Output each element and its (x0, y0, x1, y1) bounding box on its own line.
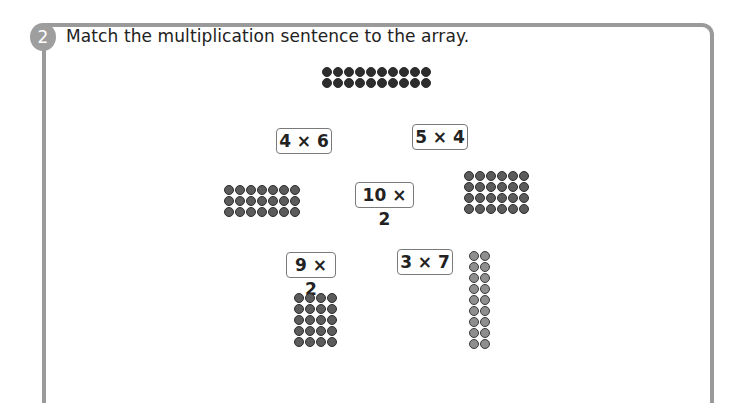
sentence-card[interactable]: 9 × 2 (286, 252, 336, 278)
dot-icon (327, 326, 337, 336)
dot-icon (327, 304, 337, 314)
dot-icon (469, 284, 479, 294)
dot-icon (246, 185, 256, 195)
dot-icon (257, 185, 267, 195)
dot-icon (497, 171, 507, 181)
dot-icon (377, 78, 387, 88)
dot-icon (475, 182, 485, 192)
dot-icon (469, 295, 479, 305)
dot-icon (327, 337, 337, 347)
dot-icon (388, 67, 398, 77)
dot-icon (508, 204, 518, 214)
dot-icon (480, 339, 490, 349)
dot-icon (257, 196, 267, 206)
dot-icon (333, 78, 343, 88)
dot-array-lower-left[interactable] (294, 293, 337, 347)
dot-icon (399, 67, 409, 77)
dot-icon (377, 67, 387, 77)
dot-icon (366, 78, 376, 88)
sentence-card[interactable]: 5 × 4 (412, 124, 468, 150)
dot-icon (475, 204, 485, 214)
dot-icon (480, 317, 490, 327)
dot-icon (279, 196, 289, 206)
dot-icon (294, 293, 304, 303)
dot-icon (316, 337, 326, 347)
dot-icon (464, 204, 474, 214)
dot-icon (480, 306, 490, 316)
dot-icon (486, 193, 496, 203)
dot-icon (480, 328, 490, 338)
dot-icon (294, 315, 304, 325)
dot-icon (486, 182, 496, 192)
dot-icon (519, 204, 529, 214)
dot-icon (475, 171, 485, 181)
dot-icon (290, 185, 300, 195)
dot-icon (344, 67, 354, 77)
dot-icon (410, 67, 420, 77)
dot-icon (469, 273, 479, 283)
dot-icon (388, 78, 398, 88)
dot-icon (508, 193, 518, 203)
dot-icon (322, 78, 332, 88)
dot-icon (235, 185, 245, 195)
dot-icon (224, 196, 234, 206)
dot-array-lower-right[interactable] (469, 251, 490, 349)
dot-icon (486, 171, 496, 181)
dot-icon (327, 293, 337, 303)
dot-icon (475, 193, 485, 203)
dot-array-right[interactable] (464, 171, 529, 214)
dot-icon (421, 67, 431, 77)
dot-icon (268, 196, 278, 206)
dot-icon (421, 78, 431, 88)
dot-icon (316, 293, 326, 303)
dot-icon (279, 185, 289, 195)
question-number-badge: 2 (30, 23, 56, 51)
dot-icon (508, 171, 518, 181)
dot-icon (464, 193, 474, 203)
dot-icon (235, 207, 245, 217)
dot-icon (469, 328, 479, 338)
dot-icon (480, 284, 490, 294)
sentence-card[interactable]: 4 × 6 (276, 128, 332, 154)
dot-icon (464, 171, 474, 181)
dot-icon (480, 295, 490, 305)
dot-icon (469, 251, 479, 261)
dot-icon (294, 304, 304, 314)
dot-icon (469, 317, 479, 327)
dot-icon (519, 193, 529, 203)
dot-icon (246, 207, 256, 217)
dot-array-top[interactable] (322, 67, 431, 88)
dot-array-left[interactable] (224, 185, 300, 217)
dot-icon (399, 78, 409, 88)
dot-icon (366, 67, 376, 77)
dot-icon (486, 204, 496, 214)
dot-icon (497, 182, 507, 192)
dot-icon (224, 207, 234, 217)
dot-icon (355, 67, 365, 77)
sentence-card[interactable]: 3 × 7 (397, 249, 453, 275)
dot-icon (294, 337, 304, 347)
dot-icon (333, 67, 343, 77)
dot-icon (480, 251, 490, 261)
dot-icon (464, 182, 474, 192)
dot-icon (268, 207, 278, 217)
dot-icon (305, 304, 315, 314)
dot-icon (322, 67, 332, 77)
dot-icon (480, 273, 490, 283)
dot-icon (469, 306, 479, 316)
dot-icon (316, 326, 326, 336)
dot-icon (290, 196, 300, 206)
dot-icon (305, 337, 315, 347)
dot-icon (305, 293, 315, 303)
dot-icon (508, 182, 518, 192)
dot-icon (279, 207, 289, 217)
dot-icon (235, 196, 245, 206)
dot-icon (344, 78, 354, 88)
dot-icon (305, 326, 315, 336)
sentence-card[interactable]: 10 × 2 (355, 182, 414, 208)
dot-icon (469, 262, 479, 272)
dot-icon (519, 182, 529, 192)
dot-icon (224, 185, 234, 195)
dot-icon (355, 78, 365, 88)
question-text: Match the multiplication sentence to the… (66, 26, 469, 46)
